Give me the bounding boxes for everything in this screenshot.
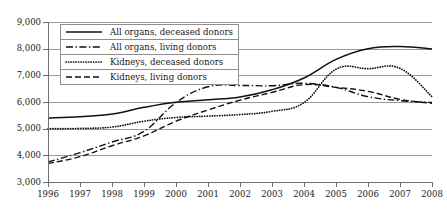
- series-line-all-organs-living-donors: [48, 83, 432, 162]
- x-axis-label: 2001: [191, 190, 225, 199]
- x-axis-label: 2005: [319, 190, 353, 199]
- y-axis-tick: [43, 49, 48, 50]
- y-axis-labels: 3,0004,0005,0006,0007,0008,0009,000: [0, 0, 41, 212]
- x-axis-tick: [272, 182, 273, 187]
- legend-swatch-dotted-icon: [65, 57, 103, 67]
- x-axis-label: 1997: [63, 190, 97, 199]
- y-axis-tick: [43, 22, 48, 23]
- legend-label: Kidneys, deceased donors: [110, 57, 223, 67]
- x-axis-tick: [400, 182, 401, 187]
- y-axis-label: 9,000: [1, 18, 41, 27]
- y-axis-tick: [43, 75, 48, 76]
- y-axis-label: 4,000: [1, 151, 41, 160]
- x-axis-tick: [208, 182, 209, 187]
- x-axis-tick: [304, 182, 305, 187]
- x-axis-label: 2004: [287, 190, 321, 199]
- legend-item-kidneys-deceased-donors: Kidneys, deceased donors: [61, 54, 238, 69]
- legend-item-all-organs-deceased-donors: All organs, deceased donors: [61, 25, 238, 39]
- x-axis-tick: [240, 182, 241, 187]
- y-axis-label: 3,000: [1, 178, 41, 187]
- y-axis-label: 8,000: [1, 44, 41, 53]
- legend-label: All organs, deceased donors: [110, 27, 233, 37]
- x-axis-tick: [336, 182, 337, 187]
- y-axis-tick: [43, 102, 48, 103]
- x-axis-label: 2007: [383, 190, 417, 199]
- x-axis-label: 2006: [351, 190, 385, 199]
- y-axis-label: 6,000: [1, 98, 41, 107]
- y-axis-label: 5,000: [1, 124, 41, 133]
- x-axis-label: 1999: [127, 190, 161, 199]
- x-axis-tick: [368, 182, 369, 187]
- y-axis: [48, 22, 49, 182]
- x-axis-label: 2002: [223, 190, 257, 199]
- x-axis-label: 2003: [255, 190, 289, 199]
- x-axis-tick: [176, 182, 177, 187]
- x-axis-label: 1998: [95, 190, 129, 199]
- y-axis-tick: [43, 155, 48, 156]
- legend-label: Kidneys, living donors: [110, 72, 207, 82]
- y-axis-label: 7,000: [1, 71, 41, 80]
- legend-label: All organs, living donors: [110, 42, 217, 52]
- y-axis-tick: [43, 129, 48, 130]
- x-axis-tick: [144, 182, 145, 187]
- legend-item-all-organs-living-donors: All organs, living donors: [61, 39, 238, 54]
- x-axis-tick: [112, 182, 113, 187]
- x-axis-label: 2008: [415, 190, 447, 199]
- legend-item-kidneys-living-donors: Kidneys, living donors: [61, 69, 238, 84]
- x-axis-label: 1996: [31, 190, 65, 199]
- legend-swatch-solid-icon: [65, 27, 103, 37]
- legend-swatch-dashed-icon: [65, 72, 103, 82]
- x-axis-label: 2000: [159, 190, 193, 199]
- x-axis-tick: [80, 182, 81, 187]
- legend: All organs, deceased donors All organs, …: [60, 24, 239, 85]
- x-axis-tick: [48, 182, 49, 187]
- legend-swatch-dash-dot-icon: [65, 42, 103, 52]
- x-axis-tick: [432, 182, 433, 187]
